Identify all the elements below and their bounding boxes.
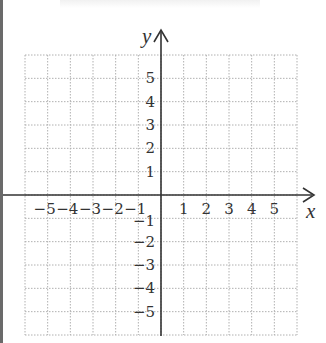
x-tick-label: 3	[224, 200, 234, 218]
y-axis-label: y	[140, 24, 152, 48]
x-tick-label: −3	[79, 200, 101, 218]
x-tick-label: 4	[247, 200, 257, 218]
y-tick-label: 1	[145, 163, 155, 181]
x-tick-label: 2	[202, 200, 212, 218]
coordinate-plane: x y −5−4−3−2−112345 54321−1−2−3−4−5	[0, 0, 326, 343]
x-tick-label: −2	[102, 200, 124, 218]
x-axis-label: x	[305, 199, 316, 223]
y-tick-label: −4	[133, 279, 155, 297]
x-tick-label: −4	[56, 200, 78, 218]
y-tick-label: 2	[145, 139, 155, 157]
y-tick-label: −3	[133, 256, 155, 274]
x-tick-label: −5	[34, 200, 56, 218]
y-tick-label: −5	[133, 303, 155, 321]
x-tick-label: 1	[179, 200, 189, 218]
y-tick-label: −1	[133, 212, 155, 230]
y-tick-label: 3	[145, 116, 155, 134]
x-tick-label: 5	[270, 200, 280, 218]
y-tick-label: −2	[133, 233, 155, 251]
x-tick-labels: −5−4−3−2−112345	[34, 200, 280, 218]
y-tick-label: 4	[145, 93, 155, 111]
y-tick-label: 5	[145, 69, 155, 87]
